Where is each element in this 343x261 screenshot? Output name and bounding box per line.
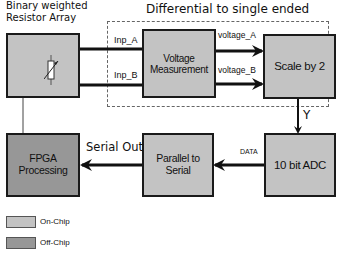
- serial-out-label: Serial Out: [86, 140, 143, 154]
- legend-swatch-off-chip: [6, 237, 36, 249]
- y-label: Y: [303, 108, 310, 122]
- fpga-processing-block[interactable]: FPGA Processing: [6, 133, 80, 197]
- parallel-to-serial-label: Parallel to Serial: [144, 153, 212, 176]
- voltage-measurement-label: Voltage Measurement: [144, 53, 214, 75]
- parallel-to-serial-block[interactable]: Parallel to Serial: [142, 133, 214, 197]
- inp-a-label: Inp_A: [114, 35, 138, 45]
- voltage-a-label: voltage_A: [218, 30, 256, 40]
- voltage-measurement-block[interactable]: Voltage Measurement: [142, 29, 216, 98]
- inp-b-label: Inp_B: [114, 70, 138, 80]
- scale-by-2-block[interactable]: Scale by 2: [263, 34, 336, 99]
- legend-swatch-on-chip: [6, 216, 36, 228]
- resistor-array-block[interactable]: [6, 33, 80, 98]
- legend-label-off-chip: Off-Chip: [40, 238, 70, 247]
- fpga-label: FPGA Processing: [8, 153, 78, 176]
- adc-label: 10 bit ADC: [274, 159, 326, 172]
- variable-resistor-icon: [44, 55, 64, 85]
- data-label: DATA: [240, 148, 258, 155]
- legend-label-on-chip: On-Chip: [40, 217, 70, 226]
- adc-block[interactable]: 10 bit ADC: [264, 133, 336, 197]
- scale-label: Scale by 2: [274, 60, 325, 73]
- voltage-b-label: voltage_B: [218, 65, 256, 75]
